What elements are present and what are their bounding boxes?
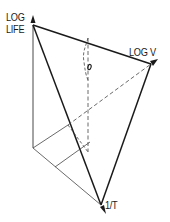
life-curve [83,38,88,80]
base-edge-back-solid [33,125,68,148]
inner-projection-line [68,125,88,152]
log-life-arrow-icon [31,15,36,23]
axis-label-one-over-t: 1/T [105,200,117,211]
base-edge-back-dashed [68,64,151,125]
top-edge-to-one-over-t [33,25,101,205]
axis-label-log-life-line2: LIFE [6,24,24,35]
axis-label-log-life-line1: LOG [6,12,25,23]
top-edge-to-log-v [33,25,151,64]
axis-label-log-v: LOG V [129,47,156,58]
life-voltage-temperature-diagram [0,0,170,222]
log-v-to-one-over-t [101,64,151,205]
